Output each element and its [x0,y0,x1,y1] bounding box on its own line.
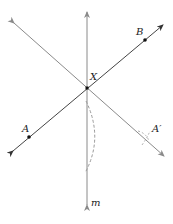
label-m: m [91,198,100,208]
point-b [143,38,147,42]
arc-mark-a-prime-1 [138,131,149,141]
point-a [27,135,31,139]
label-b: B [136,27,143,37]
label-a-prime: A′ [152,124,162,134]
label-x: X [90,72,97,82]
construction-arc [85,101,95,173]
label-a: A [22,124,29,134]
reflection-diagram [0,0,173,224]
point-x [86,87,89,90]
